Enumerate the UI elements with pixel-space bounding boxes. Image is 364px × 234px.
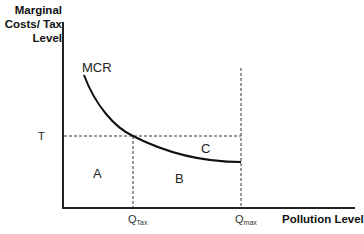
area-b-label: B: [175, 171, 184, 186]
x-axis-label: Pollution Level: [282, 213, 364, 225]
y-axis-label-line: Marginal: [5, 3, 62, 17]
y-axis-label: Marginal Costs/ Tax Level: [5, 3, 62, 45]
qtax-tick-label: QTax: [128, 213, 147, 226]
y-axis-label-line: Level: [5, 31, 62, 45]
t-tick-label: T: [38, 130, 45, 142]
qmax-sub: max: [244, 219, 257, 226]
qtax-main: Q: [128, 213, 137, 225]
mcr-label: MCR: [82, 60, 112, 75]
area-c-label: C: [201, 141, 210, 156]
y-axis-label-line: Costs/ Tax: [5, 17, 62, 31]
qtax-sub: Tax: [137, 219, 148, 226]
qmax-main: Q: [235, 213, 244, 225]
area-a-label: A: [93, 166, 102, 181]
qmax-tick-label: Qmax: [235, 213, 257, 226]
mcr-curve: [84, 75, 241, 162]
